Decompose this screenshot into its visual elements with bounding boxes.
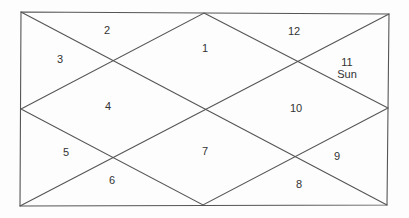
house-number: 11	[337, 56, 357, 68]
house-number: 9	[334, 150, 340, 162]
house-number: 12	[288, 25, 300, 37]
diagonal-main	[21, 12, 387, 205]
house-6: 6	[109, 174, 115, 186]
house-number: 3	[57, 53, 63, 65]
house-number: 5	[63, 146, 69, 158]
house-2: 2	[104, 24, 110, 36]
house-number: 2	[104, 24, 110, 36]
house-12: 12	[288, 25, 300, 37]
house-9: 9	[334, 150, 340, 162]
house-3: 3	[57, 53, 63, 65]
house-1: 1	[202, 42, 208, 54]
house-8: 8	[296, 178, 302, 190]
house-number: 8	[296, 178, 302, 190]
house-10: 10	[290, 102, 302, 114]
house-number: 4	[105, 100, 111, 112]
house-4: 4	[105, 100, 111, 112]
house-7: 7	[202, 145, 208, 157]
house-number: 6	[109, 174, 115, 186]
house-number: 1	[202, 42, 208, 54]
house-number: 10	[290, 102, 302, 114]
chart-lines	[0, 0, 409, 218]
house-11: 11 Sun	[337, 56, 357, 80]
planet-sun: Sun	[337, 68, 357, 80]
house-5: 5	[63, 146, 69, 158]
house-number: 7	[202, 145, 208, 157]
birth-chart: 1 2 3 4 5 6 7 8 9 10 11 Sun 12	[0, 0, 409, 218]
